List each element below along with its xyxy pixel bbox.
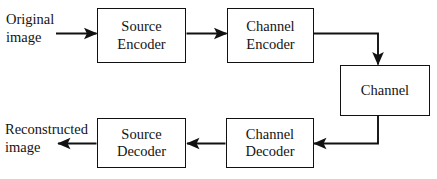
- node-channel-decoder-line-1: Channel: [246, 126, 294, 143]
- node-source-encoder-line-1: Source: [121, 18, 161, 35]
- input-label: Original image: [6, 11, 54, 46]
- input-label-line-1: Original: [6, 11, 54, 29]
- edge-channel-to-channel-decoder: [314, 116, 378, 144]
- node-source-encoder[interactable]: Source Encoder: [97, 8, 186, 63]
- node-source-decoder[interactable]: Source Decoder: [97, 118, 186, 168]
- node-source-encoder-line-2: Encoder: [117, 36, 165, 53]
- input-label-line-2: image: [6, 29, 54, 47]
- node-channel[interactable]: Channel: [340, 65, 430, 116]
- edge-channel-encoder-to-channel: [314, 34, 379, 65]
- block-diagram: Original image Reconstructed image Sourc…: [0, 0, 437, 179]
- node-channel-encoder-line-1: Channel: [246, 18, 294, 35]
- node-channel-decoder-line-2: Decoder: [245, 143, 294, 160]
- output-label-line-2: image: [5, 139, 88, 157]
- node-source-decoder-line-2: Decoder: [117, 143, 166, 160]
- node-channel-decoder[interactable]: Channel Decoder: [226, 118, 314, 168]
- node-channel-line-1: Channel: [361, 82, 409, 99]
- node-source-decoder-line-1: Source: [121, 126, 161, 143]
- output-label: Reconstructed image: [5, 121, 88, 156]
- node-channel-encoder[interactable]: Channel Encoder: [227, 8, 314, 63]
- output-label-line-1: Reconstructed: [5, 121, 88, 139]
- node-channel-encoder-line-2: Encoder: [246, 36, 294, 53]
